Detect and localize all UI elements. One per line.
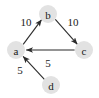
node-a-label: a <box>14 45 19 57</box>
edge-weight-group: 10 10 5 5 <box>17 16 79 76</box>
node-b-label: b <box>45 9 51 21</box>
node-d-label: d <box>48 80 54 92</box>
edge-d-to-a <box>23 56 44 79</box>
node-c-label: c <box>82 45 87 57</box>
edge-weight-c-to-a: 5 <box>45 57 51 69</box>
edge-group <box>23 19 77 79</box>
edge-weight-d-to-a: 5 <box>17 64 23 76</box>
edge-weight-b-to-c: 10 <box>68 16 80 28</box>
graph-canvas: a b c d 10 10 5 5 <box>0 0 99 98</box>
graph-diagram: a b c d 10 10 5 5 <box>0 0 99 98</box>
edge-weight-a-to-b: 10 <box>21 16 33 28</box>
